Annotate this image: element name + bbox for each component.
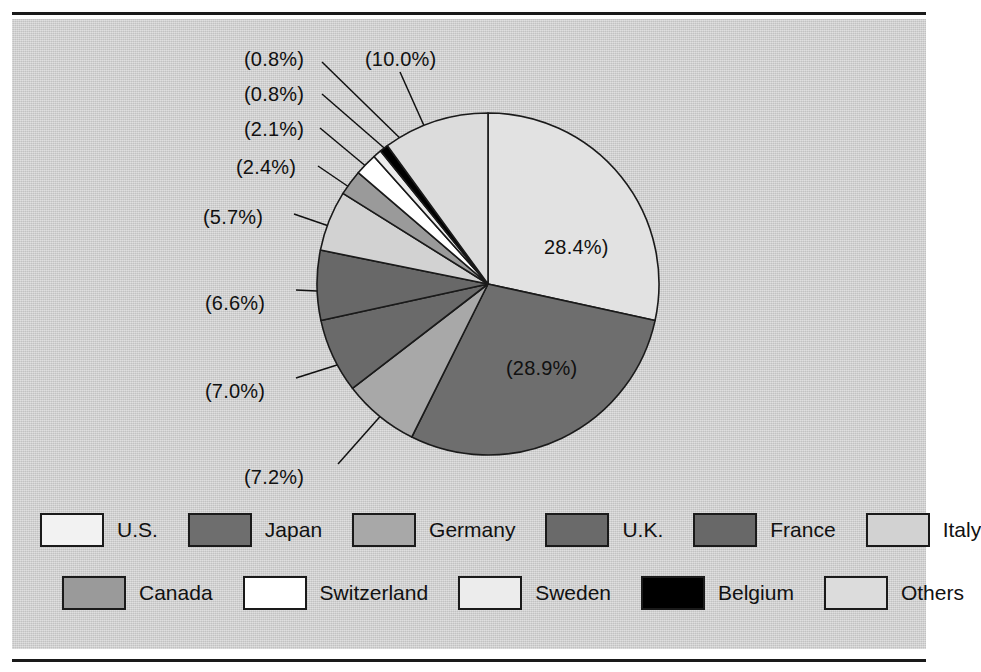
legend-item[interactable]: Belgium: [641, 576, 794, 610]
legend-swatch: [62, 576, 126, 610]
slice-percent-label: (0.8%): [244, 83, 304, 106]
legend-item[interactable]: Sweden: [458, 576, 611, 610]
legend-label: U.S.: [117, 518, 158, 542]
slice-percent-label: 28.4%): [544, 236, 609, 259]
legend-swatch: [693, 513, 757, 547]
legend-label: Japan: [265, 518, 322, 542]
slice-percent-label: (5.7%): [203, 206, 263, 229]
legend-swatch: [243, 576, 307, 610]
legend-item[interactable]: Germany: [352, 513, 515, 547]
legend-swatch: [188, 513, 252, 547]
legend-swatch: [40, 513, 104, 547]
legend-swatch: [545, 513, 609, 547]
legend-swatch: [824, 576, 888, 610]
legend-item[interactable]: U.S.: [40, 513, 158, 547]
pie-svg: [0, 0, 944, 520]
legend-label: Belgium: [718, 581, 794, 605]
legend-row: CanadaSwitzerlandSwedenBelgiumOthers: [12, 573, 976, 613]
slice-percent-label: (7.2%): [244, 466, 304, 489]
legend-label: Others: [901, 581, 964, 605]
legend-swatch: [458, 576, 522, 610]
legend-item[interactable]: Japan: [188, 513, 322, 547]
legend-swatch: [352, 513, 416, 547]
legend-row: U.S.JapanGermanyU.K.FranceItaly: [12, 510, 954, 550]
slice-percent-label: (7.0%): [205, 380, 265, 403]
slice-percent-label: (2.1%): [244, 118, 304, 141]
legend-swatch: [866, 513, 930, 547]
legend-label: U.K.: [622, 518, 663, 542]
legend-item[interactable]: Others: [824, 576, 964, 610]
slice-percent-label: (0.8%): [244, 48, 304, 71]
legend: U.S.JapanGermanyU.K.FranceItaly CanadaSw…: [12, 505, 926, 645]
bottom-rule: [12, 659, 926, 662]
slice-percent-label: (28.9%): [506, 357, 577, 380]
slice-percent-label: (10.0%): [365, 48, 436, 71]
legend-item[interactable]: U.K.: [545, 513, 663, 547]
legend-label: France: [770, 518, 835, 542]
legend-label: Germany: [429, 518, 515, 542]
legend-item[interactable]: Italy: [866, 513, 981, 547]
legend-item[interactable]: Switzerland: [243, 576, 429, 610]
leader-line: [322, 62, 408, 146]
legend-item[interactable]: Canada: [62, 576, 213, 610]
plot-area: 28.4%)(28.9%)(7.2%)(7.0%)(6.6%)(5.7%)(2.…: [0, 0, 944, 520]
legend-label: Sweden: [535, 581, 611, 605]
slice-percent-label: (2.4%): [236, 156, 296, 179]
legend-swatch: [641, 576, 705, 610]
legend-label: Switzerland: [320, 581, 429, 605]
legend-label: Canada: [139, 581, 213, 605]
slice-percent-label: (6.6%): [205, 292, 265, 315]
pie-slices-group: [317, 113, 659, 455]
legend-item[interactable]: France: [693, 513, 835, 547]
legend-label: Italy: [943, 518, 981, 542]
